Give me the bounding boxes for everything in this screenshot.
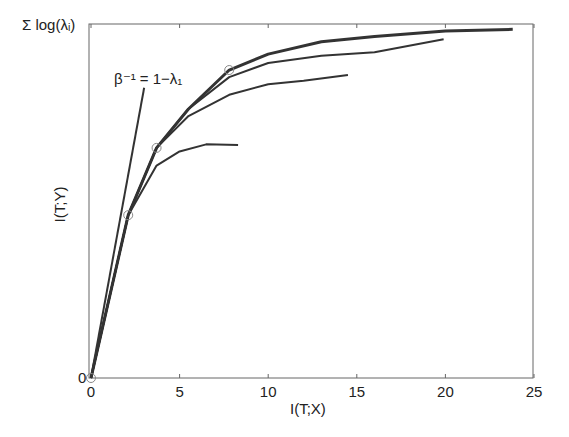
annotation-beta: β⁻¹ = 1−λ₁ xyxy=(114,70,182,88)
x-tick-label: 0 xyxy=(87,383,95,400)
x-tick-label: 5 xyxy=(175,383,183,400)
y-zero-tick-label: 0 xyxy=(78,369,86,386)
x-tick-label: 15 xyxy=(348,383,365,400)
series-line xyxy=(91,75,348,378)
x-axis-label: I(T;X) xyxy=(290,400,326,417)
x-tick-label: 10 xyxy=(260,383,277,400)
series-line xyxy=(91,88,144,378)
x-tick-label: 20 xyxy=(437,383,454,400)
y-top-tick-label: Σ log(λᵢ) xyxy=(22,16,75,33)
x-tick-label: 25 xyxy=(526,383,543,400)
data-markers xyxy=(87,66,234,383)
y-axis-label: I(T;Y) xyxy=(51,187,68,223)
